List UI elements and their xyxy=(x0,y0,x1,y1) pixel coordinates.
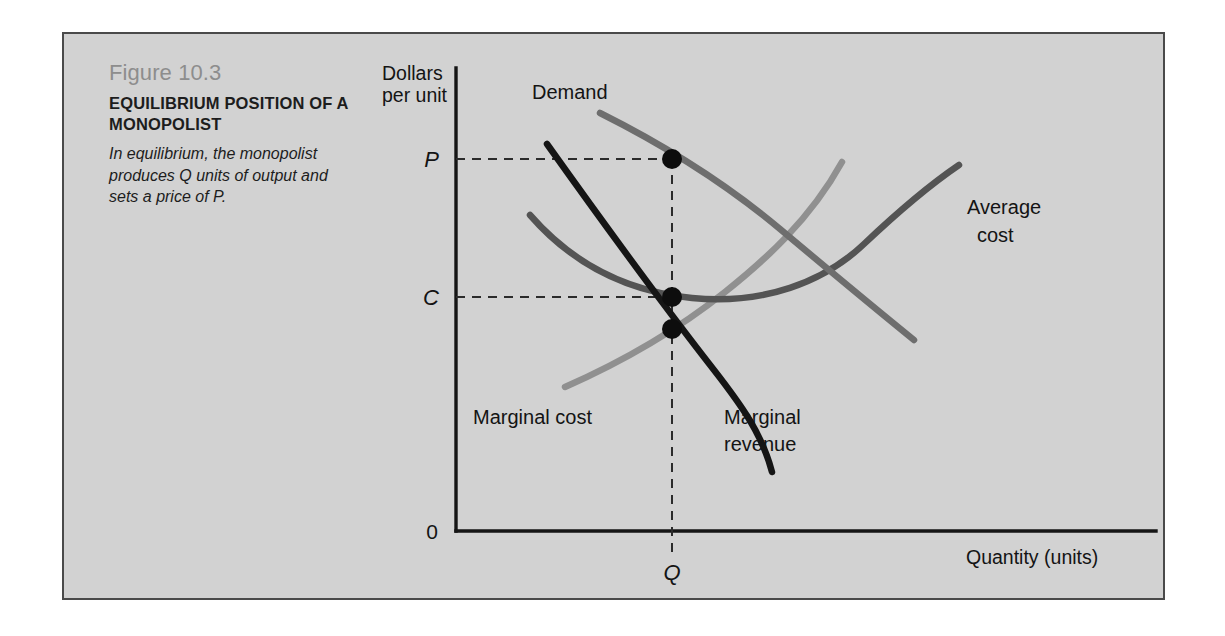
figure-root: Figure 10.3 EQUILIBRIUM POSITION OF A MO… xyxy=(0,0,1225,636)
demand-curve xyxy=(600,113,914,340)
marginal-revenue-label-line1: Marginal xyxy=(724,406,801,428)
equilibrium-cost-dot xyxy=(662,287,682,307)
origin-label: 0 xyxy=(426,520,438,543)
average-cost-label-line2: cost xyxy=(977,224,1014,246)
equilibrium-price-dot xyxy=(662,149,682,169)
marginal-revenue-label-line2: revenue xyxy=(724,433,796,455)
marginal-cost-label: Marginal cost xyxy=(473,406,592,428)
x-tick-quantity-label: Q xyxy=(663,560,680,585)
chart-plot: Dollars per unit Quantity (units) P C Q … xyxy=(64,34,1167,602)
y-tick-cost-label: C xyxy=(423,285,439,310)
average-cost-label-line1: Average xyxy=(967,196,1041,218)
y-axis-label-line1: Dollars xyxy=(382,62,443,84)
y-axis-label-line2: per unit xyxy=(382,84,448,106)
figure-panel: Figure 10.3 EQUILIBRIUM POSITION OF A MO… xyxy=(62,32,1165,600)
y-tick-price-label: P xyxy=(424,147,439,172)
equilibrium-mr-mc-dot xyxy=(662,319,682,339)
x-axis-label: Quantity (units) xyxy=(966,546,1098,568)
demand-label: Demand xyxy=(532,81,608,103)
